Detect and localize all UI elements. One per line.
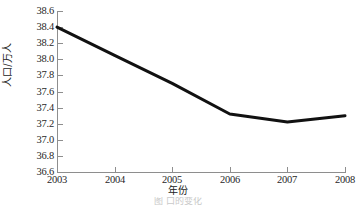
figure-caption: 图 口的变化 [0,197,356,205]
chart-figure: 38.638.438.238.037.837.637.437.237.036.8… [0,0,356,205]
x-axis-title: 年份 [0,186,356,196]
y-axis-title: 人口/万人 [3,27,13,103]
series-line-population [0,0,356,205]
